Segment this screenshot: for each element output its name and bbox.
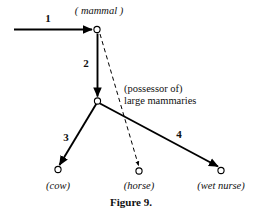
figure-container: 1 2 3 4 ( mammal ) (possessor of) large … [0, 0, 262, 216]
edge-2-label: 2 [83, 57, 89, 69]
node-cow-circle[interactable] [55, 166, 61, 172]
node-horse-label: (horse) [124, 180, 154, 192]
node-wet-nurse-label: (wet nurse) [197, 180, 245, 192]
node-possessor-label: (possessor of) large mammaries [124, 83, 196, 107]
edge-4-label: 4 [176, 128, 182, 140]
figure-caption: Figure 9. [110, 196, 152, 208]
node-wet-nurse-circle[interactable] [218, 167, 224, 173]
node-mammal-label: ( mammal ) [75, 5, 123, 17]
node-possessor-label-line1: (possessor of) [124, 83, 196, 95]
node-possessor-circle[interactable] [94, 98, 100, 104]
edge-4-line [100, 104, 218, 167]
node-possessor-label-line2: large mammaries [124, 95, 196, 107]
node-mammal-circle[interactable] [94, 26, 100, 32]
node-cow-label: (cow) [46, 180, 70, 192]
edge-3-label: 3 [63, 131, 69, 143]
edge-1-label: 1 [45, 12, 51, 24]
node-horse-circle[interactable] [136, 168, 142, 174]
